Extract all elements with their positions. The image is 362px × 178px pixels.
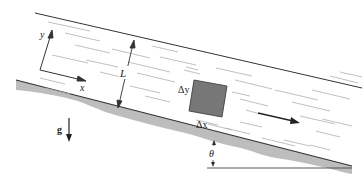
flow-direction-arrow [258, 113, 300, 124]
fluid-element [189, 80, 227, 117]
thickness-label: L [119, 67, 126, 79]
angle-label: θ [209, 148, 214, 159]
diagram-canvas: x y L Δy Δx g θ [0, 0, 362, 178]
gravity-label: g [57, 124, 62, 135]
inclined-flow-diagram: x y L Δy Δx g θ [0, 0, 362, 178]
y-axis-label: y [39, 29, 45, 40]
y-axis-arrowhead [48, 30, 53, 38]
thickness-arrowhead-top [130, 40, 135, 48]
x-axis-line [40, 70, 82, 80]
x-axis-label: x [79, 82, 85, 93]
delta-y-label: Δy [178, 84, 189, 95]
x-axis-arrowhead [77, 76, 86, 81]
gravity-arrow [66, 118, 72, 142]
coordinate-axes [40, 30, 86, 81]
delta-x-label: Δx [196, 119, 207, 130]
free-surface [35, 13, 362, 88]
